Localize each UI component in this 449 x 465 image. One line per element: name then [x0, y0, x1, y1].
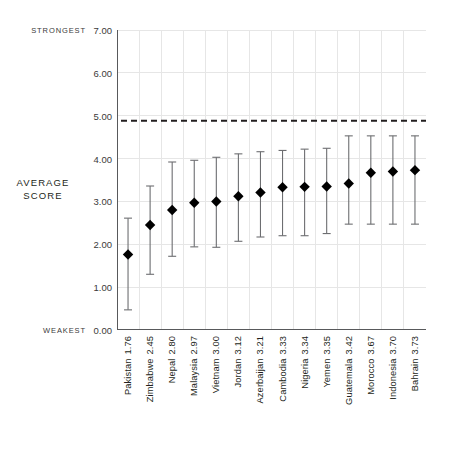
- data-point-group: [299, 149, 309, 236]
- category-value: 2.97: [189, 336, 199, 355]
- data-point-marker[interactable]: [321, 181, 331, 191]
- plot-svg: [117, 30, 426, 330]
- category-value: 3.42: [344, 336, 354, 355]
- x-axis-label-slot: Yemen3.35: [316, 332, 338, 457]
- data-point-marker[interactable]: [211, 196, 221, 206]
- data-point-group: [145, 186, 155, 274]
- x-axis-label-yemen: Yemen3.35: [322, 336, 332, 388]
- category-name: Zimbabwe: [145, 359, 155, 403]
- data-point-marker[interactable]: [145, 220, 155, 230]
- y-axis-tick-labels: 7.006.005.004.003.002.001.000.00: [78, 0, 112, 465]
- data-point-group: [255, 152, 265, 237]
- category-name: Cambodia: [278, 359, 288, 402]
- category-name: Vietnam: [211, 359, 221, 394]
- x-axis-label-morocco: Morocco3.67: [366, 336, 376, 395]
- data-point-marker[interactable]: [189, 198, 199, 208]
- x-axis-label-guatemala: Guatemala3.42: [344, 336, 354, 405]
- x-axis-label-slot: Nepal2.80: [161, 332, 183, 457]
- x-axis-label-slot: Malaysia2.97: [183, 332, 205, 457]
- data-point-group: [321, 148, 331, 233]
- x-axis-label-slot: Jordan3.12: [227, 332, 249, 457]
- y-axis-tick-1-00: 1.00: [78, 282, 112, 293]
- x-axis-label-slot: Azerbaijan3.21: [249, 332, 271, 457]
- category-name: Jordan: [233, 359, 243, 388]
- category-name: Nigeria: [300, 359, 310, 389]
- y-axis-tick-3-00: 3.00: [78, 196, 112, 207]
- y-axis-tick-0-00: 0.00: [78, 325, 112, 336]
- axis-endpoint-weakest: WEAKEST: [0, 326, 86, 335]
- x-axis-label-slot: Morocco3.67: [360, 332, 382, 457]
- data-point-marker[interactable]: [255, 187, 265, 197]
- data-point-group: [410, 136, 420, 224]
- data-point-marker[interactable]: [233, 191, 243, 201]
- data-point-marker[interactable]: [366, 168, 376, 178]
- x-axis-category-labels: Pakistan1.76Zimbabwe2.45Nepal2.80Malaysi…: [117, 332, 426, 457]
- x-axis-label-slot: Pakistan1.76: [117, 332, 139, 457]
- chart-container: STRONGEST WEAKEST AVERAGE SCORE 7.006.00…: [0, 0, 449, 465]
- category-value: 1.76: [123, 336, 133, 355]
- x-axis-label-jordan: Jordan3.12: [233, 336, 243, 388]
- x-axis-label-slot: Indonesia3.70: [382, 332, 404, 457]
- data-point-group: [277, 150, 287, 235]
- data-point-marker[interactable]: [167, 205, 177, 215]
- data-point-marker[interactable]: [123, 249, 133, 259]
- x-axis-label-zimbabwe: Zimbabwe2.45: [145, 336, 155, 402]
- x-axis-label-azerbaijan: Azerbaijan3.21: [255, 336, 265, 403]
- category-value: 3.73: [410, 336, 420, 355]
- data-point-marker[interactable]: [388, 166, 398, 176]
- y-axis-tick-5-00: 5.00: [78, 110, 112, 121]
- category-name: Morocco: [366, 359, 376, 395]
- y-axis-tick-7-00: 7.00: [78, 25, 112, 36]
- plot-area: [117, 30, 426, 330]
- category-name: Bahrain: [410, 359, 420, 392]
- category-value: 2.45: [145, 336, 155, 355]
- x-axis-label-vietnam: Vietnam3.00: [211, 336, 221, 393]
- x-axis-label-slot: Cambodia3.33: [272, 332, 294, 457]
- category-name: Indonesia: [388, 359, 398, 400]
- x-axis-label-malaysia: Malaysia2.97: [189, 336, 199, 396]
- data-point-group: [388, 136, 398, 224]
- x-axis-label-nepal: Nepal2.80: [167, 336, 177, 383]
- data-point-group: [233, 154, 243, 241]
- category-value: 3.12: [233, 336, 243, 355]
- x-axis-label-slot: Bahrain3.73: [404, 332, 426, 457]
- category-name: Yemen: [322, 359, 332, 388]
- x-axis-label-cambodia: Cambodia3.33: [278, 336, 288, 402]
- data-point-group: [211, 157, 221, 247]
- category-value: 3.33: [278, 336, 288, 355]
- y-axis-title: AVERAGE SCORE: [0, 176, 86, 202]
- data-point-marker[interactable]: [299, 182, 309, 192]
- data-point-group: [189, 160, 199, 247]
- y-axis-title-line1: AVERAGE: [0, 176, 86, 189]
- axis-endpoint-strongest: STRONGEST: [0, 26, 86, 35]
- category-value: 3.00: [211, 336, 221, 355]
- data-point-marker[interactable]: [344, 178, 354, 188]
- data-point-group: [366, 136, 376, 224]
- y-axis-tick-2-00: 2.00: [78, 239, 112, 250]
- x-axis-label-nigeria: Nigeria3.34: [300, 336, 310, 389]
- category-name: Nepal: [167, 359, 177, 384]
- data-point-group: [123, 218, 133, 310]
- category-value: 3.35: [322, 336, 332, 355]
- x-axis-label-slot: Guatemala3.42: [338, 332, 360, 457]
- x-axis-label-slot: Nigeria3.34: [294, 332, 316, 457]
- category-value: 3.34: [300, 336, 310, 355]
- category-value: 3.70: [388, 336, 398, 355]
- category-name: Pakistan: [123, 359, 133, 395]
- x-axis-label-slot: Zimbabwe2.45: [139, 332, 161, 457]
- x-axis-label-slot: Vietnam3.00: [205, 332, 227, 457]
- x-axis-label-pakistan: Pakistan1.76: [123, 336, 133, 395]
- data-point-marker[interactable]: [277, 182, 287, 192]
- category-value: 2.80: [167, 336, 177, 355]
- y-axis-tick-4-00: 4.00: [78, 153, 112, 164]
- category-value: 3.21: [255, 336, 265, 355]
- data-point-marker[interactable]: [410, 165, 420, 175]
- category-value: 3.67: [366, 336, 376, 355]
- x-axis-label-indonesia: Indonesia3.70: [388, 336, 398, 400]
- y-axis-title-line2: SCORE: [0, 189, 86, 202]
- data-point-group: [344, 136, 354, 224]
- y-axis-tick-6-00: 6.00: [78, 67, 112, 78]
- category-name: Guatemala: [344, 359, 354, 405]
- category-name: Malaysia: [189, 359, 199, 396]
- category-name: Azerbaijan: [255, 359, 265, 404]
